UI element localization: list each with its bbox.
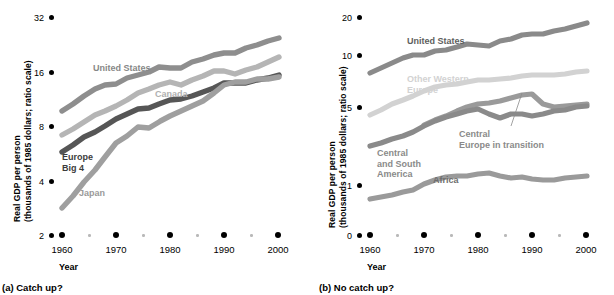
x-tick-dot-1990 xyxy=(529,232,535,238)
x-tick-dot-1980 xyxy=(475,232,481,238)
x-tick-dot-minor-1975 xyxy=(450,234,453,237)
x-tick-label-2000: 2000 xyxy=(566,244,606,255)
panel-caption-b: (b) No catch up? xyxy=(319,282,394,293)
series-label-japan: Japan xyxy=(79,188,105,199)
x-tick-label-1980: 1980 xyxy=(458,244,498,255)
x-axis-title-b: Year xyxy=(367,262,386,272)
plot-area-a xyxy=(0,0,307,250)
x-tick-label-1990: 1990 xyxy=(204,244,244,255)
series-label-other-western-europe: Other Western Europe xyxy=(407,74,469,95)
series-label-canada: Canada xyxy=(155,89,188,100)
line-united-states xyxy=(370,23,587,73)
x-tick-dot-minor-1975 xyxy=(142,234,145,237)
x-tick-dot-1960 xyxy=(59,232,65,238)
x-tick-dot-1960 xyxy=(367,232,373,238)
x-axis-title-a: Year xyxy=(59,262,78,272)
x-tick-dot-minor-1985 xyxy=(196,234,199,237)
x-tick-dot-1980 xyxy=(167,232,173,238)
x-tick-label-1970: 1970 xyxy=(404,244,444,255)
series-label-central-europe-in-transition: Central Europe in transition xyxy=(459,129,544,150)
x-tick-dot-minor-1985 xyxy=(504,234,507,237)
x-tick-dot-1990 xyxy=(221,232,227,238)
series-label-europe-big-4: Europe Big 4 xyxy=(62,152,93,173)
x-tick-dot-2000 xyxy=(583,232,589,238)
x-tick-dot-1970 xyxy=(113,232,119,238)
series-label-united-states: United States xyxy=(407,36,465,47)
figure-root: Real GDP per person (thousands of 1985 d… xyxy=(0,0,614,295)
x-tick-label-1960: 1960 xyxy=(42,244,82,255)
x-tick-label-2000: 2000 xyxy=(258,244,298,255)
series-label-central-and-south-america: Central and South America xyxy=(377,148,421,180)
x-tick-dot-minor-1995 xyxy=(558,234,561,237)
x-tick-dot-minor-1995 xyxy=(250,234,253,237)
x-tick-dot-minor-1965 xyxy=(396,234,399,237)
panel-caption-a: (a) Catch up? xyxy=(2,282,63,293)
panel-catch-up: Real GDP per person (thousands of 1985 d… xyxy=(0,0,307,295)
x-tick-dot-2000 xyxy=(275,232,281,238)
series-label-africa: Africa xyxy=(433,175,459,186)
x-tick-label-1970: 1970 xyxy=(96,244,136,255)
x-tick-dot-minor-1965 xyxy=(88,234,91,237)
x-tick-label-1980: 1980 xyxy=(150,244,190,255)
x-tick-label-1990: 1990 xyxy=(512,244,552,255)
series-label-united-states: United States xyxy=(93,63,151,74)
x-tick-dot-1970 xyxy=(421,232,427,238)
x-tick-label-1960: 1960 xyxy=(350,244,390,255)
panel-no-catch-up: Real GDP per person (thousands of 1985 d… xyxy=(307,0,614,295)
